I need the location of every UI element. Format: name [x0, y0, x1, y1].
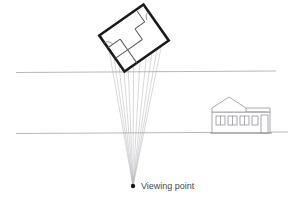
- elevation-door: [261, 115, 268, 133]
- house-elevation: [210, 97, 272, 133]
- viewing-point-label: Viewing point: [141, 181, 195, 191]
- sight-ray: [133, 66, 134, 186]
- diagram-canvas: Viewing point: [0, 0, 293, 205]
- sight-ray: [123, 59, 133, 186]
- sight-ray: [133, 49, 153, 186]
- sight-ray: [118, 54, 134, 187]
- elevation-gable-roof: [212, 97, 246, 112]
- elevation-window: [252, 116, 258, 125]
- perspective-diagram-svg: Viewing point: [0, 0, 293, 205]
- picture-plane-line: [16, 71, 276, 73]
- viewing-point-dot[interactable]: [131, 184, 135, 188]
- elevation-right-roof: [246, 108, 270, 112]
